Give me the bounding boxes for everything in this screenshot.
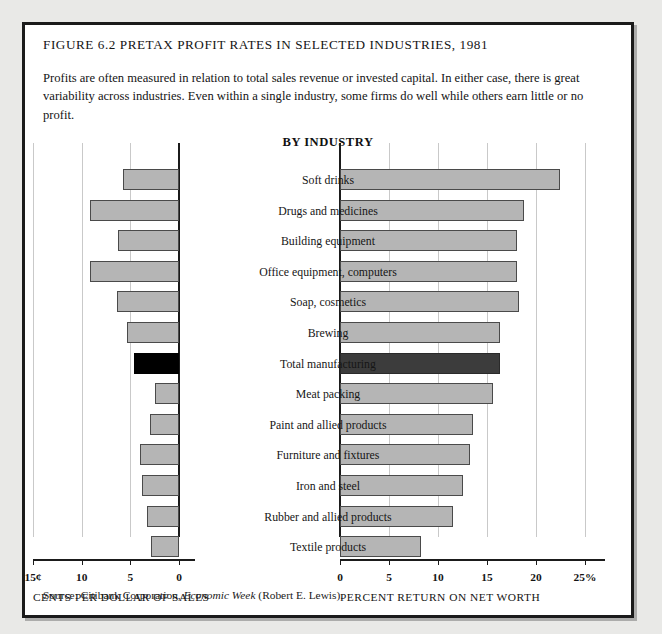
axis-title: PERCENT RETURN ON NET WORTH: [340, 591, 540, 603]
category-label: Meat packing: [243, 387, 413, 402]
gridline: [585, 143, 586, 537]
gridline: [33, 143, 34, 537]
category-label: Soap, cosmetics: [243, 295, 413, 310]
bar: [90, 261, 179, 282]
bar: [134, 353, 179, 374]
bar: [118, 230, 179, 251]
axis-tick-label: 15: [481, 571, 492, 583]
bar: [150, 414, 179, 435]
gridline: [82, 143, 83, 537]
category-label: Soft drinks: [243, 173, 413, 188]
bar: [147, 506, 179, 527]
category-label: Furniture and fixtures: [243, 448, 413, 463]
bar: [142, 475, 179, 496]
axis-tick-label: 5: [127, 571, 133, 583]
figure-frame: FIGURE 6.2 PRETAX PROFIT RATES IN SELECT…: [22, 22, 634, 618]
bar: [90, 200, 179, 221]
category-label: Office equipment, computers: [243, 265, 413, 280]
category-label: Textile products: [243, 540, 413, 555]
axis-tick-label: 15¢: [24, 571, 41, 583]
axis-tick-label: 5: [386, 571, 392, 583]
category-label: Drugs and medicines: [243, 204, 413, 219]
axis-tick-label: 0: [176, 571, 182, 583]
bar: [123, 169, 179, 190]
category-label: Rubber and allied products: [243, 510, 413, 525]
category-label: Building equipment: [243, 234, 413, 249]
bar: [117, 291, 179, 312]
source-suffix: (Robert E. Lewis).: [255, 589, 343, 601]
bar: [140, 444, 179, 465]
category-label: Brewing: [243, 326, 413, 341]
page-background: FIGURE 6.2 PRETAX PROFIT RATES IN SELECT…: [0, 0, 662, 634]
bar: [155, 383, 179, 404]
category-label: Iron and steel: [243, 479, 413, 494]
bar: [127, 322, 179, 343]
source-note: Source: Citibank Corporation, Economic W…: [43, 589, 343, 601]
source-publication: Economic Week: [183, 589, 255, 601]
category-label: Paint and allied products: [243, 418, 413, 433]
axis-tick-label: 10: [76, 571, 87, 583]
gridline: [536, 143, 537, 537]
axis-tick-label: 25%: [574, 571, 597, 583]
axis-baseline: [33, 559, 195, 561]
chart-panel-left: 15¢1050CENTS PER DOLLAR OF SALES: [33, 143, 195, 547]
source-prefix: Source: Citibank Corporation,: [43, 589, 183, 601]
chart-plot-area: 15¢1050CENTS PER DOLLAR OF SALES 0510152…: [25, 25, 631, 615]
axis-tick-label: 0: [337, 571, 343, 583]
axis-tick-label: 20: [530, 571, 541, 583]
axis-tick-label: 10: [432, 571, 443, 583]
axis-baseline: [340, 559, 605, 561]
category-label: Total manufacturing: [243, 357, 413, 372]
bar: [151, 536, 179, 557]
